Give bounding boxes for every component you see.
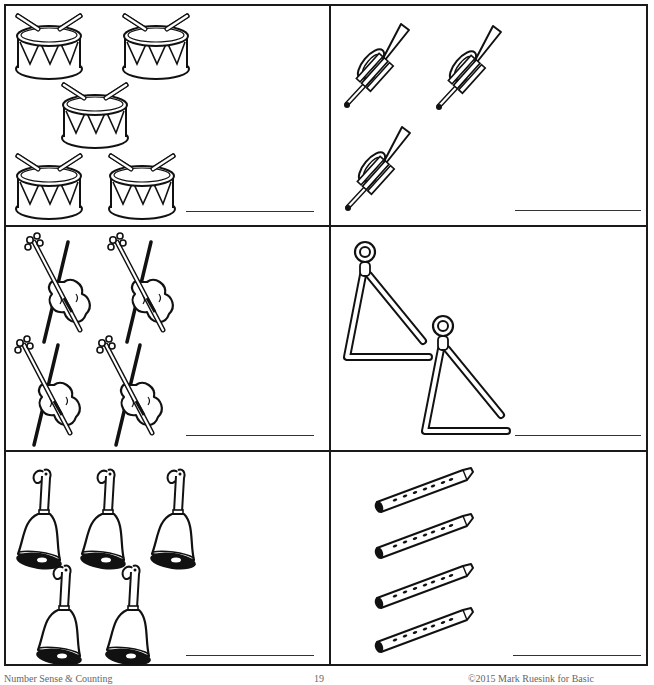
- recorder-icon: [373, 608, 473, 654]
- recorder-icon: [373, 468, 473, 514]
- answer-line-recorders[interactable]: [513, 655, 641, 656]
- trumpet-icon: [436, 26, 501, 110]
- violin-icon: [108, 233, 173, 342]
- answer-line-drums[interactable]: [186, 211, 314, 212]
- answer-line-violins[interactable]: [186, 435, 314, 436]
- recorder-icon: [373, 514, 473, 560]
- drum-group: [6, 6, 329, 225]
- recorder-icon: [373, 564, 473, 610]
- bell-icon: [15, 469, 63, 572]
- bell-icon: [79, 469, 127, 572]
- footer-page-number: 19: [314, 673, 324, 685]
- bell-icon: [35, 565, 83, 666]
- trumpet-icon: [344, 24, 409, 108]
- bell-group: [6, 452, 329, 666]
- violin-icon: [25, 233, 90, 342]
- cell-bells: [6, 452, 329, 666]
- drum-icon: [16, 156, 82, 219]
- violin-icon: [97, 336, 162, 445]
- trumpet-icon: [345, 127, 410, 211]
- bell-icon: [149, 469, 197, 572]
- drum-icon: [109, 156, 175, 219]
- bell-icon: [104, 565, 152, 666]
- cell-trumpets: [331, 6, 648, 225]
- drum-icon: [16, 16, 82, 79]
- triangle-group: [331, 227, 648, 450]
- answer-line-trumpets[interactable]: [515, 210, 641, 211]
- cell-recorders: [331, 452, 648, 666]
- drum-icon: [62, 85, 128, 148]
- trumpet-group: [331, 6, 648, 225]
- answer-line-bells[interactable]: [186, 655, 314, 656]
- footer-copyright: ©2015 Mark Ruesink for Basic: [468, 673, 594, 685]
- drum-icon: [123, 16, 189, 79]
- violin-group: [6, 227, 329, 450]
- violin-icon: [15, 336, 80, 445]
- recorder-group: [331, 452, 648, 666]
- footer-left: Number Sense & Counting: [4, 673, 113, 685]
- answer-line-triangles[interactable]: [515, 435, 641, 436]
- cell-triangles: [331, 227, 648, 450]
- triangle-icon: [347, 242, 429, 357]
- cell-drums: [6, 6, 329, 225]
- triangle-icon: [425, 316, 507, 431]
- cell-violins: [6, 227, 329, 450]
